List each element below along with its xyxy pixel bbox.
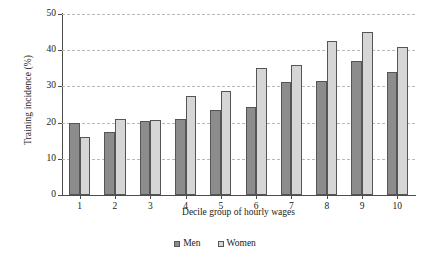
legend-swatch-icon: [218, 241, 224, 247]
bar-women-decile-6: [256, 68, 267, 195]
bar-women-decile-9: [362, 32, 373, 195]
y-tick-label: 40: [34, 45, 56, 55]
y-tick-label: 50: [34, 9, 56, 19]
bar-women-decile-2: [115, 119, 126, 195]
y-tick-label: 10: [34, 154, 56, 164]
bar-group: [69, 14, 90, 195]
x-tick-mark: [256, 195, 257, 199]
bars-layer: [62, 14, 415, 195]
bar-group: [351, 14, 372, 195]
y-axis-ticks: 01020304050: [0, 0, 56, 263]
x-tick-mark: [327, 195, 328, 199]
bar-group: [246, 14, 267, 195]
x-tick-mark: [186, 195, 187, 199]
chart-legend: MenWomen: [0, 238, 430, 248]
x-axis-title: Decile group of hourly wages: [62, 207, 415, 217]
bar-group: [210, 14, 231, 195]
x-tick-mark: [221, 195, 222, 199]
y-tick-label: 20: [34, 118, 56, 128]
x-tick-mark: [115, 195, 116, 199]
y-tick-label: 0: [34, 190, 56, 200]
bar-group: [281, 14, 302, 195]
bar-women-decile-7: [291, 65, 302, 195]
bar-men-decile-2: [104, 132, 115, 195]
bar-men-decile-3: [140, 121, 151, 195]
plot-area: [62, 14, 415, 195]
bar-men-decile-7: [281, 82, 292, 195]
bar-women-decile-5: [221, 91, 232, 195]
bar-men-decile-10: [387, 72, 398, 195]
bar-men-decile-6: [246, 107, 257, 195]
legend-swatch-icon: [174, 241, 180, 247]
x-tick-mark: [291, 195, 292, 199]
bar-women-decile-3: [150, 120, 161, 195]
legend-label: Women: [227, 238, 256, 248]
x-tick-mark: [80, 195, 81, 199]
bar-men-decile-1: [69, 123, 80, 195]
x-tick-mark: [397, 195, 398, 199]
bar-chart: Training incidence (%) 01020304050 12345…: [0, 0, 430, 263]
legend-entry-women: Women: [218, 238, 256, 248]
bar-women-decile-8: [327, 41, 338, 195]
bar-men-decile-5: [210, 110, 221, 195]
bar-men-decile-4: [175, 119, 186, 195]
x-tick-mark: [362, 195, 363, 199]
bar-group: [387, 14, 408, 195]
bar-group: [175, 14, 196, 195]
bar-women-decile-1: [80, 137, 91, 195]
bar-group: [140, 14, 161, 195]
legend-label: Men: [183, 238, 200, 248]
bar-women-decile-10: [397, 47, 408, 195]
bar-group: [104, 14, 125, 195]
legend-entry-men: Men: [174, 238, 200, 248]
bar-men-decile-8: [316, 81, 327, 195]
y-tick-label: 30: [34, 81, 56, 91]
bar-women-decile-4: [186, 96, 197, 195]
bar-men-decile-9: [351, 61, 362, 195]
bar-group: [316, 14, 337, 195]
x-tick-mark: [150, 195, 151, 199]
